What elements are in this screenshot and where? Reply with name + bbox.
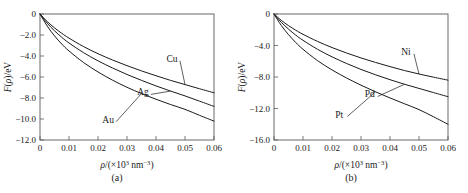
- y-tick-label: −2.0: [20, 30, 37, 40]
- y-tick-label: 0: [266, 9, 271, 19]
- figure-container: 00.010.020.030.040.050.060−2.0−4.0−6.0−8…: [0, 0, 468, 193]
- x-tick-label: 0.06: [206, 143, 222, 153]
- y-tick-label: −4.0: [20, 51, 37, 61]
- panel-b-caption: (b): [234, 172, 468, 183]
- y-tick-label: −6.0: [20, 72, 37, 82]
- x-tick-label: 0: [272, 143, 277, 153]
- curve-label-cu: Cu: [166, 54, 177, 64]
- y-tick-label: 0: [32, 9, 37, 19]
- x-tick-label: 0.01: [61, 143, 77, 153]
- x-tick-label: 0.03: [353, 143, 369, 153]
- x-tick-label: 0.02: [324, 143, 340, 153]
- chart-panel-b: 00.010.020.030.040.050.060−4.0−8.0−12.0−…: [234, 0, 468, 193]
- x-tick-label: 0.06: [440, 143, 456, 153]
- x-tick-label: 0.03: [119, 143, 135, 153]
- panel-a: 00.010.020.030.040.050.060−2.0−4.0−6.0−8…: [0, 0, 234, 193]
- panel-b: 00.010.020.030.040.050.060−4.0−8.0−12.0−…: [234, 0, 468, 193]
- x-tick-label: 0.05: [177, 143, 193, 153]
- leader-line-au: [116, 94, 141, 122]
- curve-au: [40, 14, 214, 121]
- plot-frame: [40, 14, 214, 140]
- curve-cu: [40, 14, 214, 93]
- y-axis-title: F(ρ)/eV: [3, 62, 14, 94]
- x-axis-title: ρ/(×103 nm−3): [99, 159, 153, 171]
- y-tick-label: −16.0: [249, 135, 270, 145]
- y-tick-label: −12.0: [249, 104, 270, 114]
- leader-line-ag: [151, 91, 171, 94]
- y-tick-label: −12.0: [15, 135, 36, 145]
- y-axis-title: F(ρ)/eV: [237, 62, 248, 94]
- leader-line-pt: [347, 92, 375, 117]
- curve-label-au: Au: [102, 115, 114, 125]
- panel-a-caption: (a): [0, 172, 234, 183]
- y-tick-label: −8.0: [254, 72, 271, 82]
- curve-label-ag: Ag: [137, 87, 149, 97]
- x-axis-title: ρ/(×103 nm−3): [333, 159, 387, 171]
- x-tick-label: 0.04: [382, 143, 398, 153]
- y-tick-label: −10.0: [15, 114, 36, 124]
- y-tick-label: −4.0: [254, 41, 271, 51]
- x-tick-label: 0: [38, 143, 43, 153]
- leader-line-pd: [378, 84, 405, 96]
- y-tick-label: −8.0: [20, 93, 37, 103]
- chart-panel-a: 00.010.020.030.040.050.060−2.0−4.0−6.0−8…: [0, 0, 234, 193]
- curve-pd: [274, 14, 448, 97]
- curve-label-ni: Ni: [401, 47, 411, 57]
- x-tick-label: 0.05: [411, 143, 427, 153]
- leader-line-ni: [414, 54, 419, 74]
- x-tick-label: 0.01: [295, 143, 311, 153]
- leader-line-cu: [180, 61, 185, 85]
- curve-label-pt: Pt: [335, 110, 343, 120]
- curve-ag: [40, 14, 214, 106]
- x-tick-label: 0.02: [90, 143, 106, 153]
- curve-label-pd: Pd: [365, 89, 375, 99]
- x-tick-label: 0.04: [148, 143, 164, 153]
